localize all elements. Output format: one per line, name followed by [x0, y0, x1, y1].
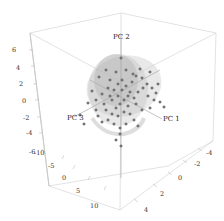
tick-label: -4	[206, 149, 212, 157]
tick-label: 6	[12, 46, 16, 54]
tick-label: -2	[23, 114, 29, 122]
pca-3d-plot[interactable]: 6 4 2 0 -2 -4 -6 -10 -5 0 5 10 4 2 0 -2 …	[0, 0, 224, 221]
bottom-right-axis	[134, 148, 202, 202]
bottom-left-axis	[62, 155, 106, 190]
tick-label: -2	[194, 160, 200, 168]
left-axis	[29, 33, 49, 186]
tick-label: 5	[76, 187, 80, 195]
tick-label: -4	[26, 129, 32, 137]
axis-label-pc1: PC 1	[163, 115, 180, 123]
tick-label: -5	[48, 162, 54, 170]
tick-label: 4	[144, 206, 148, 214]
left-axis-tick-labels: 6 4 2 0 -2 -4 -6	[12, 46, 35, 156]
tick-label: 0	[62, 174, 66, 182]
axis-label-pc3: PC 3	[67, 114, 84, 122]
tick-label: 0	[22, 97, 26, 105]
tick-label: 2	[160, 190, 164, 198]
tick-label: 10	[90, 202, 98, 210]
tick-label: 4	[16, 64, 20, 72]
bottom-right-axis-tick-labels: 4 2 0 -2 -4	[144, 149, 212, 214]
tick-label: 0	[178, 174, 182, 182]
tick-label: 2	[19, 80, 23, 88]
tick-label: -10	[34, 149, 44, 157]
axis-label-pc2: PC 2	[113, 33, 130, 41]
